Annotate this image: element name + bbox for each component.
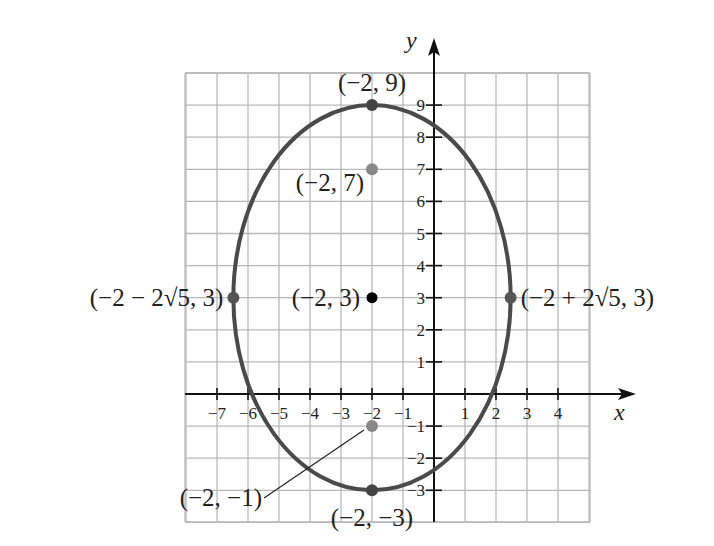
y-tick-label: 5 [417,225,426,244]
y-tick-label: 6 [417,192,426,211]
ellipse-chart: −7−6−5−4−3−2−11234987654321−1−2−3 (−2, 9… [0,0,714,546]
x-tick-label: −3 [332,404,350,423]
point-label: (−2 + 2√5, 3) [521,284,655,312]
point-label: (−2, −3) [331,504,413,532]
point-focus [366,163,378,175]
point-label: (−2, 3) [292,284,360,312]
point-label: (−2, 9) [338,69,406,97]
point-focus [366,420,378,432]
point-label: (−2, 7) [296,169,364,197]
point-center [367,292,378,303]
point-label: (−2 − 2√5, 3) [90,284,224,312]
point-label: (−2, −1) [180,484,262,512]
y-axis-label: y [404,27,417,53]
x-axis-label: x [613,399,625,425]
point-vertex [366,99,378,111]
point-co-vertex [505,292,517,304]
point-co-vertex [227,292,239,304]
x-tick-label: 2 [492,404,501,423]
y-tick-label: 3 [417,289,426,308]
y-tick-label: 9 [417,96,426,115]
y-tick-label: 7 [417,160,426,179]
y-tick-label: 1 [417,353,426,372]
x-tick-label: −6 [239,404,257,423]
x-tick-label: −5 [270,404,288,423]
y-tick-label: 4 [417,257,426,276]
x-tick-label: 1 [461,404,470,423]
y-tick-label: −2 [407,449,425,468]
point-vertex [366,484,378,496]
x-tick-label: −7 [208,404,227,423]
x-tick-label: −4 [301,404,320,423]
y-tick-label: 2 [417,321,426,340]
y-tick-label: −1 [407,417,425,436]
x-tick-label: 3 [523,404,532,423]
x-tick-label: 4 [554,404,563,423]
y-tick-label: 8 [417,128,426,147]
